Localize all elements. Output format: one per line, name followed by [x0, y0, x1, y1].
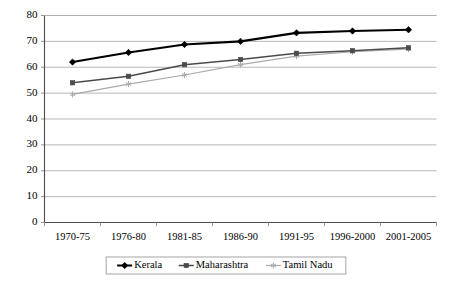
- legend-label: Maharashtra: [196, 259, 249, 270]
- data-point-marker: [70, 81, 74, 85]
- chart-legend: KeralaMaharashtraTamil Nadu: [106, 257, 346, 274]
- y-axis-tick-label: 80: [27, 8, 39, 20]
- x-axis-tick-label: 1986-90: [223, 231, 258, 242]
- legend-label: Kerala: [134, 259, 162, 270]
- data-point-marker: [293, 30, 299, 36]
- data-point-marker: [126, 74, 130, 78]
- data-point-marker: [238, 57, 242, 61]
- y-axis-tick-label: 0: [32, 215, 38, 227]
- y-axis-tick-label: 40: [27, 112, 39, 124]
- x-axis-tick-label: 2001-2005: [386, 231, 432, 242]
- data-point-marker: [406, 46, 410, 50]
- y-axis-tick-label: 60: [27, 60, 39, 72]
- y-axis-tick-label: 20: [27, 163, 39, 175]
- data-point-marker: [181, 41, 187, 47]
- y-axis-tick-label: 70: [27, 34, 39, 46]
- data-point-marker: [69, 59, 75, 65]
- data-point-marker: [125, 49, 131, 55]
- x-axis-tick-label: 1996-2000: [330, 231, 376, 242]
- data-point-marker: [184, 263, 188, 267]
- data-point-marker: [405, 27, 411, 33]
- data-point-marker: [349, 28, 355, 34]
- y-axis-tick-label: 50: [27, 86, 39, 98]
- x-axis-tick-label: 1976-80: [111, 231, 146, 242]
- x-axis-tick-label: 1970-75: [55, 231, 90, 242]
- data-point-marker: [182, 62, 186, 66]
- data-point-marker: [237, 38, 243, 44]
- line-chart: 01020304050607080 1970-751976-801981-851…: [0, 0, 452, 285]
- data-series-group: [69, 27, 411, 98]
- legend-label: Tamil Nadu: [283, 259, 333, 270]
- x-axis-tick-label: 1981-85: [167, 231, 202, 242]
- y-axis-tick-labels: 01020304050607080: [27, 8, 39, 227]
- y-axis-tick-label: 30: [27, 137, 39, 149]
- x-axis-tick-labels: 1970-751976-801981-851986-901991-951996-…: [55, 231, 431, 242]
- data-point-marker: [350, 48, 354, 52]
- data-point-marker: [294, 51, 298, 55]
- y-axis-tick-label: 10: [27, 189, 39, 201]
- chart-canvas: 01020304050607080 1970-751976-801981-851…: [0, 0, 452, 285]
- x-axis-tick-label: 1991-95: [279, 231, 314, 242]
- series-line: [73, 49, 409, 94]
